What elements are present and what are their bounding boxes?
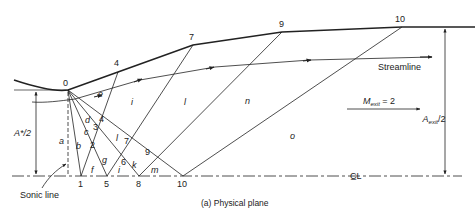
interior-point-7: 7 bbox=[124, 136, 129, 146]
region-e: e bbox=[98, 89, 103, 99]
interior-point-3: 3 bbox=[93, 122, 98, 132]
region-n: n bbox=[245, 96, 250, 106]
centerline-symbol: C̲L bbox=[350, 171, 362, 181]
mach-exit-label: Mexit = 2 bbox=[363, 96, 395, 107]
interior-point-6: 6 bbox=[121, 157, 126, 167]
axis-point-10: 10 bbox=[177, 179, 187, 189]
region-b: b bbox=[76, 141, 81, 151]
streamline bbox=[32, 57, 432, 102]
region-m: m bbox=[151, 165, 159, 175]
region-g: g bbox=[102, 155, 107, 165]
exit-area-label: Aexit/2 bbox=[422, 114, 446, 125]
interior-point-2: 2 bbox=[90, 140, 95, 150]
region-i-upper: i bbox=[131, 97, 134, 107]
characteristics bbox=[68, 27, 402, 176]
axis-point-8: 8 bbox=[136, 179, 141, 189]
nozzle-characteristics-diagram: 0 4 7 9 10 1 5 8 10 2 3 4 6 7 9 a b c d … bbox=[0, 0, 475, 209]
interior-point-4: 4 bbox=[99, 114, 104, 124]
region-a: a bbox=[59, 136, 64, 146]
interior-point-9: 9 bbox=[145, 147, 150, 157]
region-f: f bbox=[91, 165, 95, 175]
wall-point-7: 7 bbox=[189, 32, 194, 42]
region-c: c bbox=[84, 127, 89, 137]
figure-caption: (a) Physical plane bbox=[201, 198, 269, 208]
sonic-line-label: Sonic line bbox=[20, 190, 59, 200]
wall-point-4: 4 bbox=[114, 58, 119, 68]
wall-point-10: 10 bbox=[395, 14, 405, 24]
region-l-lower: l bbox=[116, 133, 119, 143]
region-l-upper: l bbox=[184, 97, 187, 107]
streamline-label: Streamline bbox=[378, 62, 421, 72]
region-k: k bbox=[132, 160, 137, 170]
streamline-arrow-2 bbox=[134, 79, 142, 82]
nozzle-wall bbox=[14, 27, 475, 90]
region-o: o bbox=[290, 131, 295, 141]
wall-point-9: 9 bbox=[279, 19, 284, 29]
throat-area-label: A*/2 bbox=[13, 128, 31, 138]
axis-point-5: 5 bbox=[104, 179, 109, 189]
wall-point-0: 0 bbox=[63, 78, 68, 88]
axis-point-1: 1 bbox=[78, 179, 83, 189]
